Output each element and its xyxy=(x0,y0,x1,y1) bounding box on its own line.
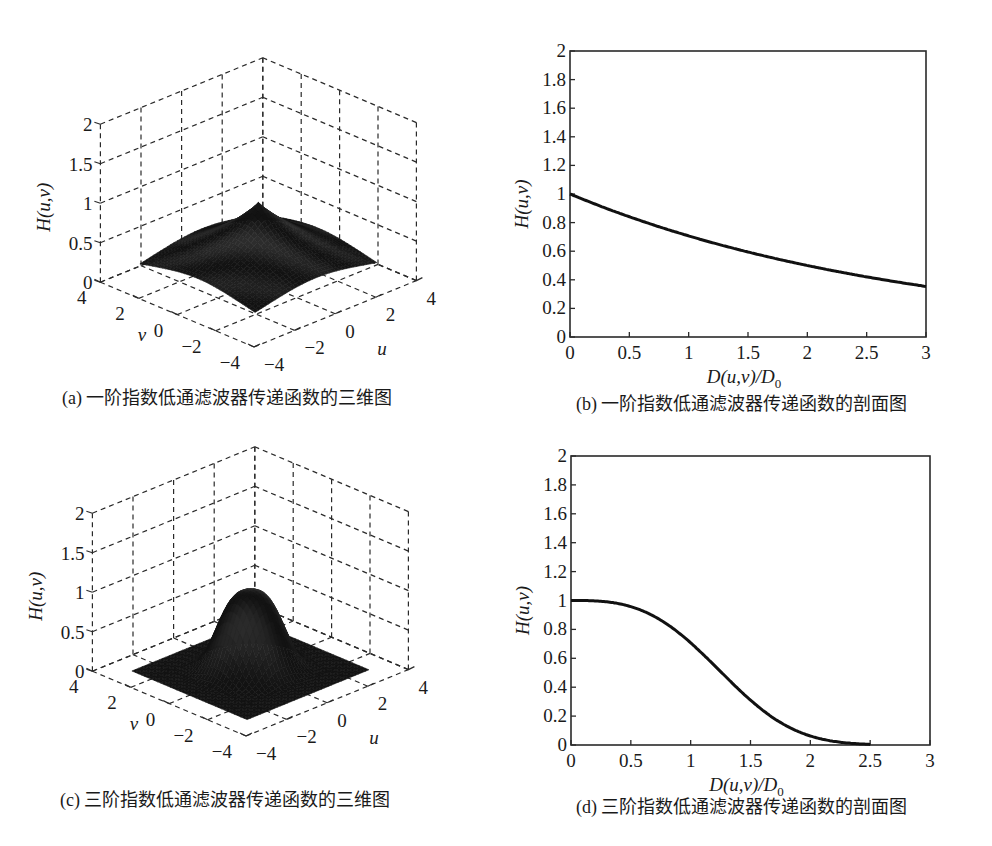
x-tick-label: 0 xyxy=(566,750,576,771)
z-tick-label: 1.5 xyxy=(69,154,93,175)
x-tick-label: 1 xyxy=(686,750,696,771)
v-tick-label: −4 xyxy=(220,352,241,373)
x-axis-label: D(u,v)/D0 xyxy=(708,774,784,799)
u-tick-label: −4 xyxy=(264,354,285,375)
z-axis-label: H(u,v) xyxy=(33,183,55,233)
y-tick-label: 0.8 xyxy=(542,212,566,233)
z-tick xyxy=(94,241,100,243)
z-tick xyxy=(86,551,92,553)
z-tick xyxy=(86,590,92,592)
figure-canvas: 00.511.52−4−2024−4−2024vuH(u,v) 00.20.40… xyxy=(0,0,992,846)
profile-curve xyxy=(571,601,870,745)
v-tick xyxy=(202,717,208,720)
u-axis-label: u xyxy=(377,338,387,359)
v-axis-label: v xyxy=(138,324,147,345)
u-tick-label: −2 xyxy=(297,726,317,747)
x-tick-label: 2 xyxy=(803,342,813,363)
v-tick xyxy=(163,701,169,704)
y-axis-label: H(u,v) xyxy=(511,179,533,229)
x-tick-label: 2.5 xyxy=(855,342,879,363)
x-tick-label: 0.5 xyxy=(619,750,643,771)
caption-d: (d) 三阶指数低通滤波器传递函数的剖面图 xyxy=(576,797,908,818)
v-tick-label: 4 xyxy=(77,287,87,308)
u-tick-label: 4 xyxy=(426,288,436,309)
u-tick-label: 2 xyxy=(386,304,396,325)
panel-d-profile-plot: 00.20.40.60.811.21.41.61.8200.511.522.53… xyxy=(512,445,935,799)
v-tick-label: 0 xyxy=(154,320,164,341)
v-tick-label: 0 xyxy=(146,709,156,730)
y-axis-label: H(u,v) xyxy=(512,586,534,636)
v-tick-label: 2 xyxy=(107,692,117,713)
y-tick-label: 1 xyxy=(558,590,568,611)
v-tick xyxy=(125,684,131,687)
x-tick-label: 0.5 xyxy=(617,342,641,363)
y-tick-label: 1.2 xyxy=(542,154,566,175)
v-tick-label: −4 xyxy=(212,741,233,762)
u-tick xyxy=(416,278,422,281)
y-tick-label: 0.8 xyxy=(543,618,567,639)
plot-frame xyxy=(570,51,926,337)
v-tick xyxy=(210,328,216,331)
z-axis-label: H(u,v) xyxy=(25,572,47,622)
x-tick-label: 3 xyxy=(921,342,931,363)
v-tick xyxy=(240,733,246,736)
z-tick xyxy=(94,201,100,203)
y-tick-label: 1.8 xyxy=(542,69,566,90)
y-tick-label: 1.6 xyxy=(542,97,566,118)
u-tick-label: −2 xyxy=(305,337,325,358)
v-tick xyxy=(171,312,177,315)
u-axis-label: u xyxy=(369,727,379,748)
v-tick xyxy=(248,344,254,347)
x-tick-label: 1 xyxy=(684,342,694,363)
panel-a-3d-surface: 00.511.52−4−2024−4−2024vuH(u,v) xyxy=(33,58,436,375)
u-tick xyxy=(246,733,252,736)
caption-b: (b) 一阶指数低通滤波器传递函数的剖面图 xyxy=(576,394,908,415)
y-tick-label: 1.4 xyxy=(543,532,567,553)
z-tick-label: 0.5 xyxy=(69,233,93,254)
v-axis-label: v xyxy=(130,713,139,734)
caption-a: (a) 一阶指数低通滤波器传递函数的三维图 xyxy=(62,388,392,409)
u-tick-label: 4 xyxy=(418,677,428,698)
v-tick-label: 4 xyxy=(69,676,79,697)
z-tick-label: 2 xyxy=(83,114,93,135)
x-tick-label: 1.5 xyxy=(739,750,763,771)
v-tick-label: 2 xyxy=(115,303,125,324)
u-tick-label: 0 xyxy=(345,321,355,342)
y-tick-label: 1.4 xyxy=(542,126,566,147)
u-tick-label: 2 xyxy=(378,693,388,714)
z-tick xyxy=(86,511,92,513)
y-tick-label: 0.2 xyxy=(543,705,567,726)
y-tick-label: 2 xyxy=(558,445,568,466)
panel-b-profile-plot: 00.20.40.60.811.21.41.61.8200.511.522.53… xyxy=(511,40,931,391)
y-tick-label: 0.4 xyxy=(542,269,566,290)
z-tick xyxy=(94,122,100,124)
v-tick-label: −2 xyxy=(173,725,193,746)
z-tick-label: 2 xyxy=(75,503,85,524)
z-tick-label: 0.5 xyxy=(61,622,85,643)
profile-curve xyxy=(570,194,926,286)
u-tick xyxy=(254,344,260,347)
v-tick-label: −2 xyxy=(181,336,201,357)
x-axis-label: D(u,v)/D0 xyxy=(706,366,782,391)
caption-c: (c) 三阶指数低通滤波器传递函数的三维图 xyxy=(60,790,390,811)
z-tick-label: 1.5 xyxy=(61,543,85,564)
z-tick-label: 1 xyxy=(75,582,85,603)
y-tick-label: 0.4 xyxy=(543,676,567,697)
y-tick-label: 1.2 xyxy=(543,561,567,582)
z-tick xyxy=(94,162,100,164)
u-tick-label: 0 xyxy=(337,710,347,731)
y-tick-label: 1.6 xyxy=(543,503,567,524)
x-tick-label: 2 xyxy=(806,750,816,771)
surface-mesh xyxy=(140,202,377,312)
z-tick xyxy=(86,630,92,632)
y-tick-label: 0.6 xyxy=(542,240,566,261)
panel-c-3d-surface: 00.511.52−4−2024−4−2024vuH(u,v) xyxy=(25,447,428,764)
u-tick xyxy=(408,667,414,670)
y-tick-label: 0.2 xyxy=(542,297,566,318)
v-tick xyxy=(133,295,139,298)
y-tick-label: 0.6 xyxy=(543,647,567,668)
x-tick-label: 3 xyxy=(925,750,935,771)
z-tick-label: 1 xyxy=(83,193,93,214)
y-tick-label: 2 xyxy=(557,40,567,61)
y-tick-label: 1 xyxy=(557,183,567,204)
